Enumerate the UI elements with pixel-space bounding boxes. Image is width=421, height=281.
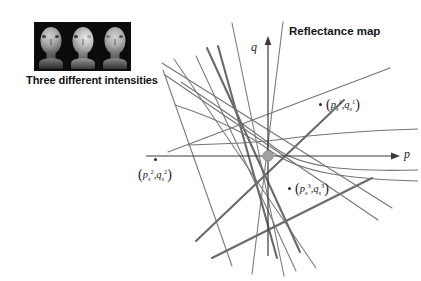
q-axis-arrowhead (265, 36, 272, 45)
plot-title: Reflectance map (289, 25, 380, 37)
point-marker-ps1qs1 (319, 103, 322, 106)
point-label-ps3qs3: (ps3,qs3) (295, 182, 329, 197)
reflectance-map-plot (0, 0, 421, 281)
p-subscript: s (336, 105, 339, 112)
contour-curve-2 (175, 105, 418, 181)
p-subscript: s (305, 189, 308, 196)
contour-shallow-1 (162, 63, 392, 208)
paren-close: ) (355, 97, 360, 112)
contour-family-shallow (162, 63, 392, 220)
q-subscript: s (319, 189, 322, 196)
contour-thin-2 (196, 56, 296, 271)
contour-curve-1 (181, 82, 418, 170)
p-axis-label: p (404, 147, 410, 162)
origin-intersection-dot (263, 151, 273, 161)
reflectance-map-figure: Three different intensities (0, 0, 421, 281)
contour-thick-4 (212, 178, 372, 258)
p-subscript: s (148, 175, 151, 182)
q-axis-label: q (251, 40, 257, 55)
point-marker-ps3qs3 (288, 187, 291, 190)
point-label-ps2qs2: (ps2,qs2) (138, 168, 172, 183)
contour-shallow-2 (165, 75, 378, 220)
paren-close: ) (167, 167, 172, 182)
paren-close: ) (324, 181, 329, 196)
contour-thin-5 (163, 70, 232, 266)
contour-family-thick (196, 46, 372, 258)
p-axis-arrowhead (391, 153, 400, 160)
point-marker-ps2qs2 (154, 158, 157, 161)
point-label-ps1qs1: (ps1,qs1) (326, 98, 360, 113)
q-subscript: s (350, 105, 353, 112)
contour-family-curved (175, 82, 418, 181)
q-subscript: s (162, 175, 165, 182)
